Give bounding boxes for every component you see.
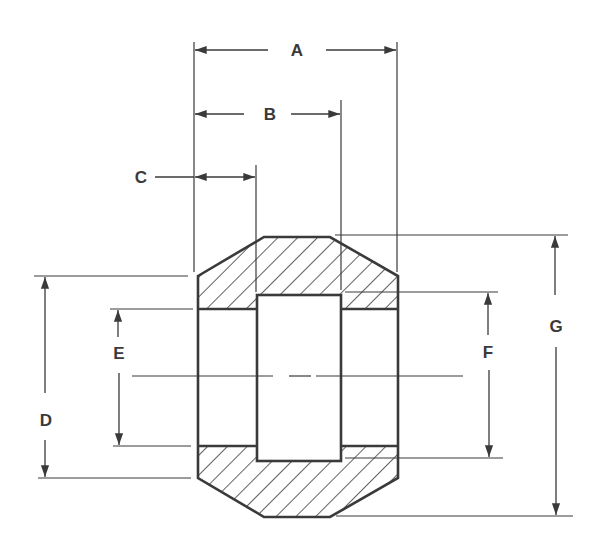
dimension-A: A — [195, 41, 396, 60]
label-C: C — [135, 168, 147, 187]
dimension-G: G — [549, 236, 562, 515]
fitting-section-body — [198, 237, 398, 517]
label-G: G — [549, 317, 562, 336]
fitting-dimension-diagram: A B C D E F G — [0, 0, 603, 543]
label-D: D — [40, 411, 52, 430]
dimension-F: F — [483, 293, 493, 457]
dimension-E: E — [113, 310, 124, 445]
dimension-D: D — [40, 277, 52, 477]
dimension-B: B — [195, 105, 340, 124]
label-A: A — [291, 41, 303, 60]
dimension-C: C — [135, 168, 255, 187]
label-F: F — [483, 343, 493, 362]
label-B: B — [264, 105, 276, 124]
label-E: E — [113, 344, 124, 363]
inner-bore — [257, 295, 341, 461]
